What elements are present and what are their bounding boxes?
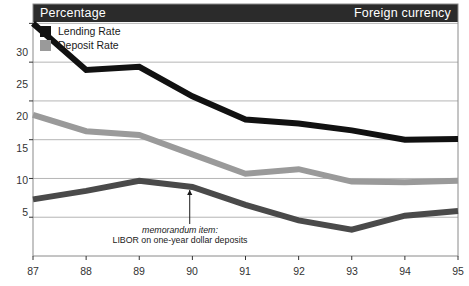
annotation-line-2: LIBOR on one-year dollar deposits (100, 235, 260, 245)
legend-item-deposit-rate: Deposit Rate (40, 39, 120, 52)
annotation-arrow-head (187, 190, 192, 195)
legend-label-lending-rate: Lending Rate (58, 26, 120, 37)
chart-legend: Lending Rate Deposit Rate (40, 25, 120, 53)
data-series-group (33, 23, 458, 229)
y-tick-marks (29, 23, 33, 217)
legend-swatch-deposit-rate (40, 40, 51, 51)
x-tick-marks (33, 256, 458, 260)
legend-swatch-lending-rate (40, 26, 51, 37)
series-line-2 (33, 181, 458, 230)
series-line-1 (33, 115, 458, 182)
memorandum-annotation: memorandum item: LIBOR on one-year dolla… (100, 225, 260, 245)
annotation-line-1: memorandum item: (100, 225, 260, 235)
legend-label-deposit-rate: Deposit Rate (58, 40, 119, 51)
annotation-arrow-icon (187, 190, 192, 224)
legend-item-lending-rate: Lending Rate (40, 25, 120, 38)
